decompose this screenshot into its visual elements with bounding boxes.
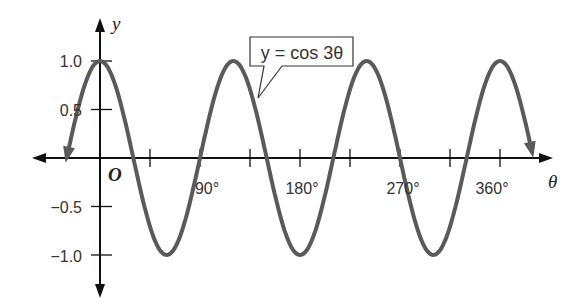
- cosine-chart: y = cos 3θ y θ O 1.0 0.5 −0.5 −1.0 90° 1…: [0, 0, 588, 308]
- x-tick-label: 360°: [475, 180, 508, 197]
- y-axis-label: y: [110, 13, 121, 34]
- curve-arrow-right-icon: [524, 141, 536, 158]
- x-tick-label: 90°: [195, 180, 219, 197]
- curve-arrow-left-icon: [63, 146, 75, 163]
- x-tick-label: 270°: [386, 180, 419, 197]
- x-axis-label: θ: [548, 171, 557, 192]
- origin-label: O: [108, 164, 122, 185]
- y-tick-label: −0.5: [50, 199, 82, 216]
- x-tick-label: 180°: [285, 180, 318, 197]
- y-tick-label: 0.5: [60, 102, 82, 119]
- y-tick-label: 1.0: [60, 53, 82, 70]
- equation-label: y = cos 3θ: [261, 43, 344, 63]
- y-tick-label: −1.0: [50, 248, 82, 265]
- equation-callout: y = cos 3θ: [250, 37, 353, 98]
